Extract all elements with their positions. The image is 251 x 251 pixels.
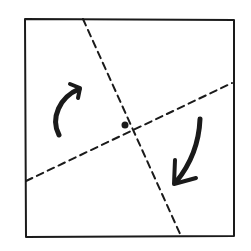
diagram-canvas bbox=[0, 0, 251, 251]
rotation-diagram bbox=[0, 0, 251, 251]
curved-arrow-icon-upper-left bbox=[56, 84, 80, 135]
center-point bbox=[122, 122, 129, 129]
curved-arrow-icon-lower-right bbox=[174, 119, 200, 184]
dashed-line-steep bbox=[83, 19, 181, 236]
